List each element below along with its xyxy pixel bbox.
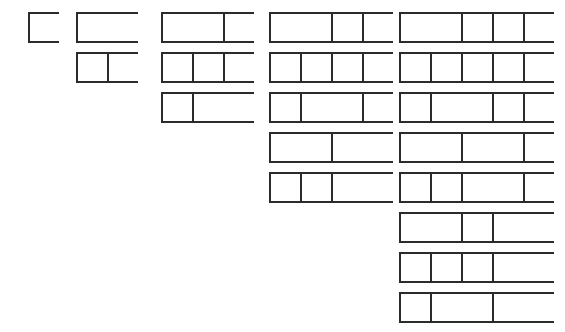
unit-cell (494, 54, 525, 81)
unit-cell (525, 94, 556, 121)
unit-cell (163, 54, 194, 81)
unit-cell (401, 174, 432, 201)
composition-bar (269, 52, 393, 83)
unit-cell (333, 54, 364, 81)
unit-cell (432, 54, 463, 81)
double-cell (401, 134, 463, 161)
unit-cell (525, 174, 556, 201)
unit-cell (494, 14, 525, 41)
composition-bar (269, 172, 393, 203)
unit-cell (271, 54, 302, 81)
double-cell (271, 14, 333, 41)
double-cell (163, 14, 225, 41)
composition-bar (399, 172, 554, 203)
unit-cell (494, 94, 525, 121)
composition-bar (399, 212, 554, 243)
double-cell (401, 14, 463, 41)
double-cell (494, 254, 556, 281)
double-cell (494, 294, 556, 321)
unit-cell (364, 54, 395, 81)
unit-cell (78, 54, 109, 81)
double-cell (333, 134, 395, 161)
composition-bar (28, 12, 59, 43)
unit-cell (225, 14, 256, 41)
unit-cell (525, 134, 556, 161)
composition-bar (76, 12, 138, 43)
composition-bar (399, 92, 554, 123)
composition-bar (399, 52, 554, 83)
unit-cell (271, 174, 302, 201)
double-cell (432, 294, 494, 321)
unit-cell (463, 54, 494, 81)
unit-cell (364, 14, 395, 41)
unit-cell (194, 54, 225, 81)
composition-bar (269, 132, 393, 163)
double-cell (194, 94, 256, 121)
composition-bar (399, 292, 554, 323)
unit-cell (163, 94, 194, 121)
unit-cell (525, 14, 556, 41)
unit-cell (432, 254, 463, 281)
unit-cell (271, 94, 302, 121)
composition-bar (399, 252, 554, 283)
unit-cell (432, 174, 463, 201)
unit-cell (401, 54, 432, 81)
double-cell (463, 134, 525, 161)
composition-bar (269, 12, 393, 43)
double-cell (401, 214, 463, 241)
unit-cell (30, 14, 61, 41)
composition-bar (161, 92, 254, 123)
unit-cell (463, 254, 494, 281)
double-cell (271, 134, 333, 161)
unit-cell (463, 214, 494, 241)
unit-cell (525, 54, 556, 81)
unit-cell (302, 174, 333, 201)
unit-cell (333, 14, 364, 41)
composition-bar (161, 12, 254, 43)
composition-bar (161, 52, 254, 83)
unit-cell (401, 94, 432, 121)
unit-cell (302, 54, 333, 81)
composition-bar (399, 12, 554, 43)
unit-cell (463, 14, 494, 41)
unit-cell (401, 254, 432, 281)
composition-bar (269, 92, 393, 123)
double-cell (302, 94, 364, 121)
double-cell (333, 174, 395, 201)
double-cell (432, 94, 494, 121)
unit-cell (109, 54, 140, 81)
double-cell (494, 214, 556, 241)
composition-bar (76, 52, 138, 83)
unit-cell (401, 294, 432, 321)
composition-bar (399, 132, 554, 163)
diagram-canvas (0, 0, 565, 332)
double-cell (463, 174, 525, 201)
unit-cell (225, 54, 256, 81)
unit-cell (364, 94, 395, 121)
double-cell (78, 14, 140, 41)
